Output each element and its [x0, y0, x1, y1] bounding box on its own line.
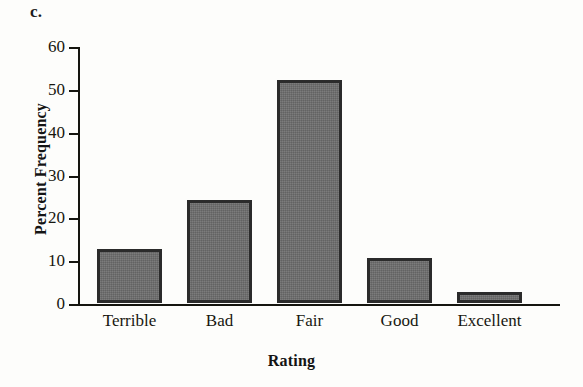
bar — [367, 258, 432, 303]
y-axis-tick-mark — [69, 176, 78, 178]
y-axis-tick-label: 40 — [48, 122, 65, 142]
y-axis-tick-mark — [69, 47, 78, 49]
x-axis-line — [78, 304, 560, 306]
bar-chart-figure: c. Percent Frequency 0102030405060 Terri… — [0, 0, 583, 387]
plot-area: 0102030405060 TerribleBadFairGoodExcelle… — [78, 47, 560, 305]
bar — [457, 292, 522, 303]
y-axis-tick-label: 10 — [48, 251, 65, 271]
x-axis-tick-label: Excellent — [430, 311, 550, 331]
panel-label: c. — [30, 2, 42, 22]
y-axis-tick-label: 50 — [48, 79, 65, 99]
y-axis-tick-mark — [69, 218, 78, 220]
bar — [277, 80, 342, 303]
y-axis-tick-mark — [69, 90, 78, 92]
y-axis-line — [78, 47, 80, 306]
y-axis-tick-label: 30 — [48, 165, 65, 185]
y-axis-tick-label: 0 — [57, 294, 66, 314]
y-axis-tick-label: 20 — [48, 208, 65, 228]
y-axis-tick-mark — [69, 261, 78, 263]
y-axis-tick-label: 60 — [48, 37, 65, 57]
y-axis-tick-mark — [69, 133, 78, 135]
bar — [187, 200, 252, 303]
bar — [97, 249, 162, 303]
y-axis-tick-mark — [69, 304, 78, 306]
x-axis-title: Rating — [0, 352, 583, 370]
